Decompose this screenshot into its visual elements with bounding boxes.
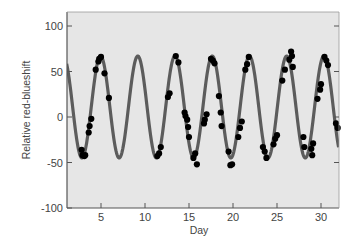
y-tick-label: 0 [57, 111, 63, 123]
data-point [82, 152, 88, 158]
data-point [314, 96, 320, 102]
y-tick-label: -100 [41, 202, 63, 214]
data-point [226, 149, 232, 155]
x-tick-label: 20 [227, 211, 239, 223]
data-point [158, 144, 164, 150]
data-point [173, 53, 179, 59]
data-point [79, 147, 85, 153]
data-point [185, 124, 191, 130]
data-point [186, 134, 192, 140]
x-tick-label: 10 [139, 211, 151, 223]
y-axis-label: Relative red-blueshift [20, 61, 32, 160]
radial-velocity-chart: 100500-50-10051015202530 Relative red-bl… [0, 0, 353, 247]
data-point [204, 111, 210, 117]
data-point [93, 67, 99, 73]
data-point [194, 161, 200, 167]
data-point [263, 155, 269, 161]
data-point [86, 129, 92, 135]
x-axis-label: Day [190, 224, 209, 236]
data-point [156, 150, 162, 156]
data-point [87, 123, 93, 129]
data-point [219, 123, 225, 129]
data-point [239, 118, 245, 124]
data-point [246, 54, 252, 60]
data-point [325, 62, 331, 68]
x-tick-label: 5 [98, 211, 104, 223]
data-point [279, 78, 285, 84]
data-point [318, 81, 324, 87]
data-point [211, 60, 217, 66]
data-point [262, 149, 268, 155]
data-point [282, 67, 288, 73]
data-point [309, 152, 315, 158]
data-point [237, 125, 243, 131]
data-point [235, 134, 241, 140]
data-point [290, 64, 296, 70]
data-point [229, 161, 235, 167]
x-tick-label: 30 [315, 211, 327, 223]
data-point [317, 87, 323, 93]
data-point [270, 141, 276, 147]
data-point [175, 59, 181, 65]
data-point [167, 90, 173, 96]
data-point [216, 93, 222, 99]
x-tick-label: 15 [183, 211, 195, 223]
y-tick-label: 100 [45, 20, 63, 32]
data-point [218, 109, 224, 115]
y-tick-label: 50 [51, 66, 63, 78]
data-point [301, 144, 307, 150]
data-point [310, 140, 316, 146]
data-point [289, 53, 295, 59]
data-point [88, 116, 94, 122]
data-point [335, 125, 341, 131]
data-point [106, 95, 112, 101]
data-point [101, 70, 107, 76]
data-point [308, 146, 314, 152]
data-point [242, 67, 248, 73]
data-point [274, 132, 280, 138]
data-point [98, 54, 104, 60]
data-point [244, 61, 250, 67]
data-point [192, 150, 198, 156]
y-tick-label: -50 [47, 157, 63, 169]
data-point [300, 134, 306, 140]
x-tick-label: 25 [271, 211, 283, 223]
data-point [202, 117, 208, 123]
data-point [184, 117, 190, 123]
